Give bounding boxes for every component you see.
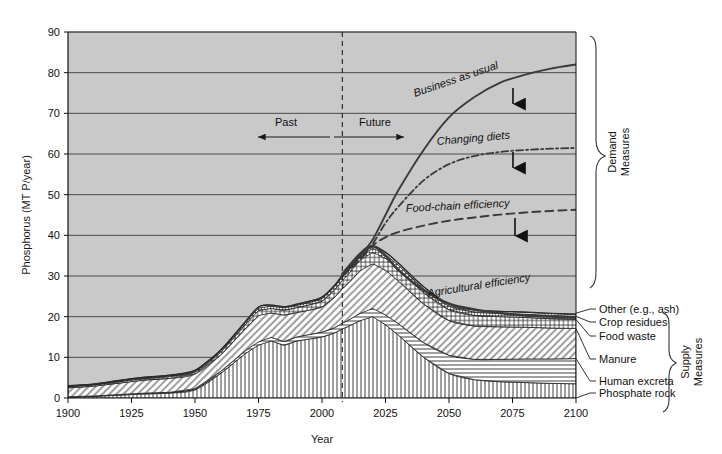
demand-brace: Demand Measures <box>590 36 631 288</box>
demand-brace-label-line2: Measures <box>619 127 631 176</box>
y-tick-label: 80 <box>48 67 60 79</box>
x-tick-label: 1900 <box>56 407 80 419</box>
supply-layer-labels: Other (e.g., ash)Crop residuesFood waste… <box>576 303 679 399</box>
y-tick-label: 40 <box>48 229 60 241</box>
supply-label-leader <box>576 359 596 381</box>
supply-layer-label: Phosphate rock <box>599 387 676 399</box>
x-tick-label: 1925 <box>119 407 143 419</box>
y-tick-label: 70 <box>48 107 60 119</box>
supply-layer-label: Manure <box>599 353 636 365</box>
y-tick-label: 60 <box>48 148 60 160</box>
y-tick-label: 10 <box>48 351 60 363</box>
x-tick-label: 2075 <box>500 407 524 419</box>
y-tick-label: 0 <box>54 392 60 404</box>
x-tick-label: 2100 <box>564 407 588 419</box>
supply-label-leader <box>576 309 596 313</box>
supply-layer-label: Crop residues <box>599 316 668 328</box>
x-tick-label: 2050 <box>437 407 461 419</box>
x-tick-label: 2000 <box>310 407 334 419</box>
past-label: Past <box>275 116 297 128</box>
x-tick-label: 1975 <box>246 407 270 419</box>
future-label: Future <box>359 116 391 128</box>
y-tick-label: 50 <box>48 189 60 201</box>
x-tick-label: 1950 <box>183 407 207 419</box>
supply-layer-label: Other (e.g., ash) <box>599 303 679 315</box>
y-tick-label: 90 <box>48 26 60 38</box>
y-axis-ticks: 0102030405060708090 <box>48 26 68 404</box>
supply-label-leader <box>576 316 596 322</box>
supply-layer-label: Human excreta <box>599 375 674 387</box>
x-tick-label: 2025 <box>373 407 397 419</box>
supply-brace-label-line2: Measures <box>692 337 704 386</box>
y-tick-label: 20 <box>48 311 60 323</box>
y-axis-title: Phosphorus (MT P/year) <box>20 155 32 275</box>
supply-label-leader <box>576 329 596 360</box>
supply-brace-label-line1: Supply <box>679 345 691 379</box>
x-axis-ticks: 190019251950197520002025205020752100 <box>56 398 588 419</box>
x-axis-title: Year <box>311 433 334 445</box>
y-tick-label: 30 <box>48 270 60 282</box>
supply-layer-label: Food waste <box>599 330 656 342</box>
chart-figure: 0102030405060708090 19001925195019752000… <box>0 0 722 454</box>
demand-brace-label-line1: Demand <box>606 131 618 173</box>
supply-label-leader <box>576 393 596 398</box>
phosphorus-supply-demand-chart: 0102030405060708090 19001925195019752000… <box>0 0 722 454</box>
